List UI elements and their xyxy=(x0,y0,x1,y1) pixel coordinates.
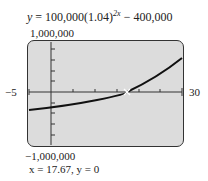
ymin-label: −1,000,000 xyxy=(25,150,75,162)
xmax-label: 30 xyxy=(189,86,200,98)
trace-readout: x = 17.67, y = 0 xyxy=(29,163,99,175)
xmin-label: −5 xyxy=(5,86,17,98)
function-curve xyxy=(29,58,182,110)
ymax-label: 1,000,000 xyxy=(30,27,74,39)
equation-label: yy = 100,000(1.04) = 100,000(1.04)2x − 4… xyxy=(27,10,172,25)
graph-plot xyxy=(27,40,184,147)
